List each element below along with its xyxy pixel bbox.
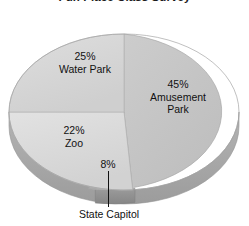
pie-slice-water-park[interactable]	[9, 34, 124, 112]
pie-side-wall-state-capitol	[95, 188, 135, 204]
pie-slice-zoo[interactable]	[9, 112, 133, 190]
pie-chart-stage: 25% Water Park 45% Amusement Park 22% Zo…	[0, 0, 249, 226]
pie-chart-graphic	[0, 0, 249, 226]
slice-label-state-capitol: State Capitol	[49, 208, 169, 220]
callout-leader-line	[108, 171, 109, 207]
pie-chart-screenshot: Fun Place Class Survey	[0, 0, 249, 226]
